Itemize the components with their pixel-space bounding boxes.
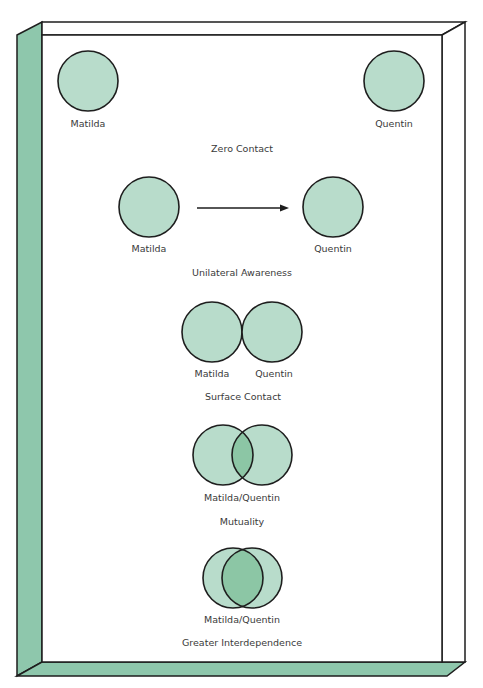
label-matilda: Matilda [195,368,230,380]
label-matilda: Matilda [132,243,167,255]
stage-title-zero-contact: Zero Contact [211,143,273,155]
frame-top-edge [42,22,465,35]
stage-title-greater-interdependence: Greater Interdependence [182,637,302,649]
label-matilda-quentin: Matilda/Quentin [204,614,280,626]
label-matilda: Matilda [71,118,106,130]
stage-title-surface-contact: Surface Contact [205,391,281,403]
circle-quentin-zero-contact [364,51,424,111]
label-quentin: Quentin [375,118,413,130]
stage-title-unilateral-awareness: Unilateral Awareness [192,267,292,279]
circle-matilda-zero-contact [58,51,118,111]
frame-bottom-side [17,662,465,676]
label-quentin: Quentin [314,243,352,255]
relationship-levels-diagram: Matilda Quentin Zero Contact Matilda Que… [0,0,483,688]
circle-quentin-surface [242,302,302,362]
diagram-canvas [0,0,483,688]
frame-left-side [17,22,42,676]
circle-quentin-unilateral [303,177,363,237]
frame-right-edge [442,22,465,662]
stage-title-mutuality: Mutuality [220,516,264,528]
circle-matilda-surface [182,302,242,362]
label-quentin: Quentin [255,368,293,380]
label-matilda-quentin: Matilda/Quentin [204,492,280,504]
circle-matilda-unilateral [119,177,179,237]
